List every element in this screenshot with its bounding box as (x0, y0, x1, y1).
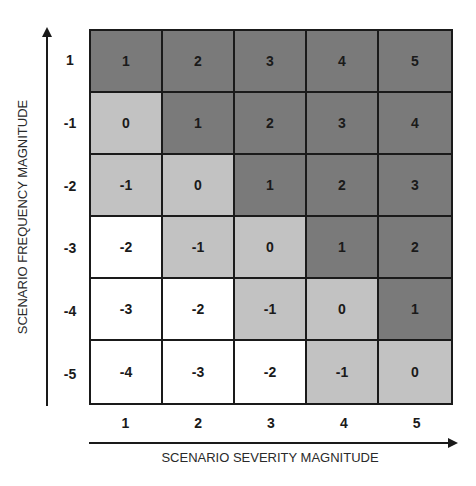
matrix-cell: 0 (91, 93, 163, 155)
x-tick-label: 1 (89, 410, 162, 436)
matrix-cell: -1 (91, 155, 163, 217)
matrix-cell: 0 (307, 279, 379, 341)
y-axis-arrow-line (46, 36, 48, 406)
matrix-cell: -1 (163, 217, 235, 279)
matrix-cell: -2 (235, 341, 307, 403)
x-tick-label: 3 (235, 410, 308, 436)
matrix-cell: -1 (235, 279, 307, 341)
y-tick-label: -4 (58, 280, 82, 343)
matrix-cell: 3 (307, 93, 379, 155)
matrix-cell: 2 (235, 93, 307, 155)
matrix-cell: 5 (379, 31, 451, 93)
risk-matrix-grid: 1234501234-10123-2-1012-3-2-101-4-3-2-10 (89, 29, 453, 405)
matrix-cell: 1 (379, 279, 451, 341)
matrix-cell: -2 (91, 217, 163, 279)
matrix-cell: 4 (379, 93, 451, 155)
y-tick-labels: 1-1-2-3-4-5 (58, 29, 82, 405)
matrix-cell: 3 (379, 155, 451, 217)
y-tick-label: -2 (58, 154, 82, 217)
matrix-cell: 2 (307, 155, 379, 217)
matrix-cell: 4 (307, 31, 379, 93)
y-tick-label: -1 (58, 92, 82, 155)
matrix-cell: -3 (91, 279, 163, 341)
x-tick-label: 4 (307, 410, 380, 436)
x-axis-title: SCENARIO SEVERITY MAGNITUDE (89, 450, 451, 465)
x-axis-arrow-head-icon (448, 438, 458, 448)
matrix-cell: 1 (163, 93, 235, 155)
matrix-cell: 1 (307, 217, 379, 279)
y-axis-title: SCENARIO FREQUENCY MAGNITUDE (15, 100, 30, 335)
matrix-cell: -2 (163, 279, 235, 341)
matrix-cell: -1 (307, 341, 379, 403)
matrix-cell: 0 (379, 341, 451, 403)
matrix-cell: 3 (235, 31, 307, 93)
y-tick-label: 1 (58, 29, 82, 92)
matrix-cell: -4 (91, 341, 163, 403)
matrix-cell: 0 (235, 217, 307, 279)
matrix-cell: 2 (379, 217, 451, 279)
x-tick-label: 5 (380, 410, 453, 436)
y-axis-arrow-head-icon (42, 27, 52, 37)
x-tick-labels: 12345 (89, 410, 453, 436)
y-tick-label: -3 (58, 217, 82, 280)
matrix-cell: 0 (163, 155, 235, 217)
matrix-cell: 1 (235, 155, 307, 217)
matrix-cell: 1 (91, 31, 163, 93)
matrix-cell: 2 (163, 31, 235, 93)
x-tick-label: 2 (162, 410, 235, 436)
y-tick-label: -5 (58, 342, 82, 405)
matrix-cell: -3 (163, 341, 235, 403)
x-axis-arrow-line (89, 442, 451, 444)
